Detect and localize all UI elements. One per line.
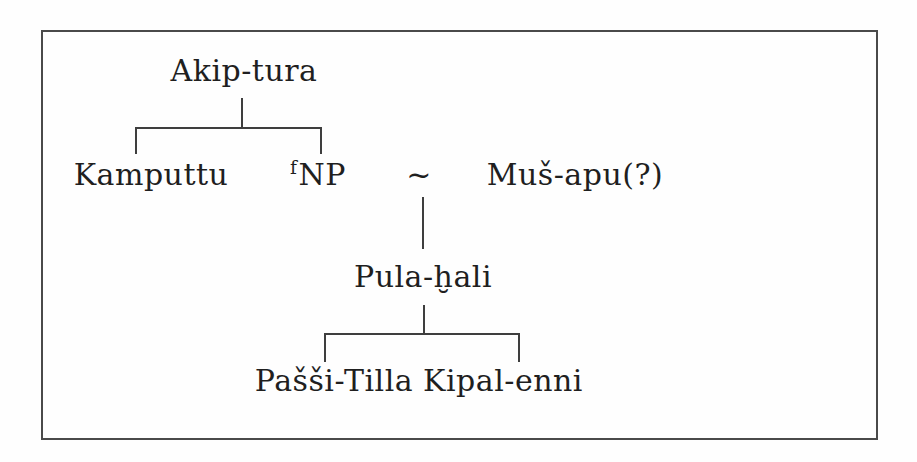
node-kamputtu: Kamputtu [74, 158, 229, 193]
connector-gen2-bar [135, 127, 322, 129]
connector-pula-hali-stem [423, 305, 425, 335]
node-fnp: fNP [290, 158, 346, 193]
female-determinative: f [290, 157, 297, 178]
node-pula-hali: Pula-ḫali [354, 260, 492, 295]
connector-drop-fnp [320, 127, 322, 154]
connector-marriage-stem [422, 197, 424, 249]
connector-gen4-bar [324, 333, 520, 335]
connector-drop-kipal-enni [518, 333, 520, 362]
connector-drop-passi-tilla [324, 333, 326, 362]
fnp-label: NP [298, 157, 345, 192]
node-passi-tilla: Pašši-Tilla [255, 364, 413, 399]
connector-drop-kamputtu [135, 127, 137, 154]
figure-frame: Akip-tura Kamputtu fNP ~ Muš-apu(?) Pula… [41, 30, 878, 440]
node-akip-tura: Akip-tura [171, 54, 318, 89]
connector-root-stem [241, 98, 243, 129]
marriage-tilde-symbol: ~ [406, 158, 432, 193]
scanned-figure-page: Akip-tura Kamputtu fNP ~ Muš-apu(?) Pula… [0, 0, 917, 462]
node-mus-apu: Muš-apu(?) [487, 158, 663, 193]
node-kipal-enni: Kipal-enni [423, 364, 583, 399]
